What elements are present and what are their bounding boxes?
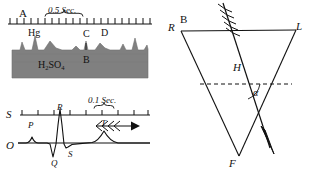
panel-s-label-p: P: [28, 121, 34, 130]
panel-s-label: S: [6, 109, 12, 120]
panel-b-angle-label-alpha: α: [253, 88, 258, 98]
panel-a-scale-label: 0.5 Sec.: [48, 6, 76, 15]
electrolyte-so: SO: [48, 59, 61, 70]
panel-a-label: A: [19, 8, 27, 19]
panel-s-graphic: [0, 95, 160, 179]
panel-b-arrow-head: [261, 126, 274, 154]
panel-a-label-hg: Hg: [28, 28, 40, 38]
panel-b-vertex-label-l: L: [296, 21, 302, 32]
panel-a-electrolyte-trace: [12, 36, 148, 78]
panel-b-vertex-label-f: F: [229, 158, 236, 169]
panel-s-label-s: S: [68, 150, 73, 159]
electrolyte-sub-4: 4: [61, 64, 64, 71]
panel-b-axis-label-h: H: [233, 62, 241, 73]
panel-b-vector-arrow: [218, 3, 274, 154]
panel-s-ticks: [22, 110, 148, 115]
panel-b-einthoven-triangle: B R L F H α: [160, 0, 309, 179]
panel-a-label-c: C: [83, 29, 90, 39]
panel-a-capillary-electrometer: A 0.5 Sec.: [0, 0, 160, 88]
panel-a-ticks: [10, 18, 150, 24]
panel-s-label-q: Q: [51, 159, 58, 168]
panel-s-label-t: T: [101, 119, 106, 128]
panel-s-scale-label: 0.1 Sec.: [88, 96, 116, 105]
panel-a-label-d: D: [101, 28, 108, 38]
panel-s-label-r: R: [57, 103, 63, 112]
panel-b-label: B: [180, 14, 187, 25]
panel-s-ecg-waveform: [18, 109, 150, 157]
panel-a-electrolyte-label: H2SO4: [38, 60, 65, 72]
panel-s-baseline-label: O: [6, 140, 14, 151]
panel-b-graphic: [160, 0, 309, 179]
panel-a-label-b: B: [83, 55, 90, 65]
figure-root: A 0.5 Sec.: [0, 0, 309, 179]
panel-b-vertex-label-r: R: [168, 22, 175, 33]
panel-s-electrocardiogram: S 0.1 Sec. O: [0, 95, 160, 179]
